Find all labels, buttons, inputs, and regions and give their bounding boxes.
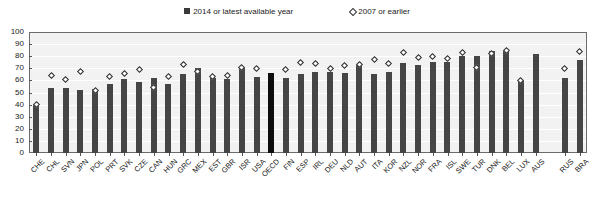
x-axis-tick-mark <box>36 153 37 156</box>
bar <box>518 80 524 153</box>
x-axis-tick-mark <box>227 153 228 156</box>
x-axis-tick-mark <box>213 153 214 156</box>
x-axis-tick-mark <box>66 153 67 156</box>
bar <box>195 68 201 153</box>
x-axis-tick-mark <box>183 153 184 156</box>
chart-category-group <box>572 32 587 153</box>
x-axis-tick-mark <box>521 153 522 156</box>
x-axis-tick-mark <box>580 153 581 156</box>
chart-category-group <box>396 32 411 153</box>
diamond-marker <box>180 61 187 68</box>
chart-category-group <box>249 32 264 153</box>
x-axis-tick-label: BRA <box>573 157 590 174</box>
diamond-marker <box>62 76 69 83</box>
bar <box>107 84 113 153</box>
bar <box>386 72 392 153</box>
chart-category-group <box>558 32 573 153</box>
chart-category-group <box>484 32 499 153</box>
x-axis-tick-label: RUS <box>558 157 576 175</box>
x-axis-tick-mark <box>301 153 302 156</box>
bar <box>562 78 568 153</box>
chart-category-group <box>352 32 367 153</box>
bar <box>63 88 69 153</box>
legend-label-bar-series: 2014 or latest available year <box>193 7 293 16</box>
bar <box>121 79 127 153</box>
chart-category-group <box>176 32 191 153</box>
chart-category-group <box>44 32 59 153</box>
diamond-marker <box>341 62 348 69</box>
x-axis-tick-mark <box>198 153 199 156</box>
x-axis-tick-mark <box>154 153 155 156</box>
chart-category-group <box>543 32 558 153</box>
bar <box>489 51 495 153</box>
x-axis-tick-label: BEL <box>500 157 516 173</box>
x-axis-tick-label: POL <box>88 157 105 174</box>
x-axis-tick-label: DEU <box>323 157 341 175</box>
bar <box>415 65 421 153</box>
bar <box>430 62 436 153</box>
x-axis-labels: CHECHLSVNJPNPOLPRTSVKCZECANHUNGRCMEXESTG… <box>29 157 587 207</box>
x-axis-tick-mark <box>345 153 346 156</box>
y-axis-tick-label: 30 <box>15 113 24 121</box>
x-axis-tick-label: AUS <box>529 157 546 174</box>
x-axis-tick-mark <box>433 153 434 156</box>
diamond-marker <box>459 49 466 56</box>
x-axis-tick-label: CZE <box>133 157 150 174</box>
x-axis-tick-label: GBR <box>220 157 238 175</box>
diamond-marker <box>371 56 378 63</box>
x-axis-tick-mark <box>124 153 125 156</box>
x-axis-tick-mark <box>448 153 449 156</box>
y-axis-tick-label: 70 <box>15 64 24 72</box>
x-axis-tick-mark <box>403 153 404 156</box>
y-axis-tick-label: 100 <box>11 28 24 36</box>
y-axis-tick-label: 0 <box>20 149 24 157</box>
bar <box>92 89 98 153</box>
chart-category-group <box>132 32 147 153</box>
bar <box>210 78 216 153</box>
filled-square-icon <box>184 8 190 14</box>
x-axis-tick-label: AUT <box>353 157 370 174</box>
x-axis-tick-label: SWE <box>454 157 472 175</box>
bar <box>459 56 465 153</box>
chart-category-group <box>29 32 44 153</box>
x-axis-tick-mark <box>95 153 96 156</box>
chart-category-group <box>161 32 176 153</box>
x-axis-tick-mark <box>418 153 419 156</box>
chart-category-group <box>337 32 352 153</box>
bar <box>356 65 362 153</box>
x-axis-tick-mark <box>565 153 566 156</box>
bar <box>268 73 274 153</box>
chart-category-group <box>514 32 529 153</box>
chart-category-group <box>88 32 103 153</box>
x-axis-tick-label: ESP <box>294 157 311 174</box>
x-axis-tick-label: FRA <box>426 157 443 174</box>
diamond-marker <box>297 59 304 66</box>
y-axis: 1009080706050403020100 <box>0 32 29 153</box>
bar <box>533 54 539 153</box>
diamond-marker <box>106 73 113 80</box>
x-axis-tick-label: TUR <box>470 157 487 174</box>
bar <box>165 84 171 153</box>
bar <box>48 88 54 153</box>
x-axis-tick-mark <box>286 153 287 156</box>
x-axis-tick-mark <box>242 153 243 156</box>
chart-category-group <box>264 32 279 153</box>
bar <box>503 51 509 153</box>
bar <box>180 74 186 153</box>
x-axis-tick-label: GRC <box>175 157 193 175</box>
bar <box>342 73 348 153</box>
diamond-marker <box>400 49 407 56</box>
open-diamond-icon <box>349 8 355 14</box>
chart-category-group <box>323 32 338 153</box>
x-axis-tick-mark <box>492 153 493 156</box>
y-axis-tick-label: 10 <box>15 137 24 145</box>
bar <box>444 62 450 153</box>
diamond-marker <box>444 55 451 62</box>
x-axis-tick-mark <box>389 153 390 156</box>
y-axis-tick-label: 50 <box>15 89 24 97</box>
bar <box>327 72 333 153</box>
legend-item-bar-series: 2014 or latest available year <box>184 7 293 16</box>
x-axis-tick-label: CAN <box>147 157 165 175</box>
x-axis-tick-mark <box>271 153 272 156</box>
chart-category-group <box>205 32 220 153</box>
